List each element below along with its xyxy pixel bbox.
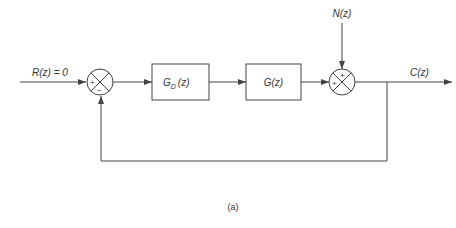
plant-block: G(z) (246, 64, 301, 100)
summing-junction-1: + − (87, 69, 113, 95)
controller-label-sub: D (171, 83, 176, 90)
figure-caption: (a) (228, 202, 239, 212)
sum2-top-plus-sign: + (340, 71, 345, 80)
plant-label: G(z) (264, 77, 283, 88)
reference-label: R(z) = 0 (32, 67, 68, 78)
output: C(z) (355, 67, 452, 82)
sum1-plus-sign: + (90, 78, 95, 87)
reference-input: R(z) = 0 (20, 67, 86, 82)
disturbance-input: N(z) (333, 8, 352, 69)
sum1-minus-sign: − (97, 86, 102, 95)
disturbance-label: N(z) (333, 8, 352, 19)
output-label: C(z) (410, 67, 429, 78)
controller-block: GD(z) (152, 64, 209, 100)
block-diagram: R(z) = 0 + − GD(z) G(z) N(z) + + (0, 0, 456, 228)
summing-junction-2: + + (329, 69, 355, 95)
sum2-left-plus-sign: + (332, 79, 337, 88)
controller-label-arg: (z) (178, 77, 190, 88)
